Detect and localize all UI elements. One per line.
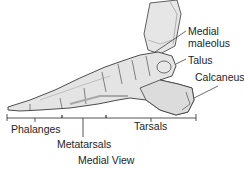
tibia-bone xyxy=(144,0,181,54)
foot-bones xyxy=(8,52,194,115)
label-tarsals: Tarsals xyxy=(134,121,167,132)
label-medial-maleolus-line1: Medial xyxy=(188,26,219,37)
label-phalanges: Phalanges xyxy=(11,124,61,135)
label-medial-maleolus-line2: maleolus xyxy=(188,38,230,49)
label-calcaneus: Calcaneus xyxy=(195,72,244,83)
label-talus: Talus xyxy=(188,55,213,66)
label-metatarsals: Metatarsals xyxy=(57,139,111,150)
diagram-title: Medial View xyxy=(78,155,134,166)
